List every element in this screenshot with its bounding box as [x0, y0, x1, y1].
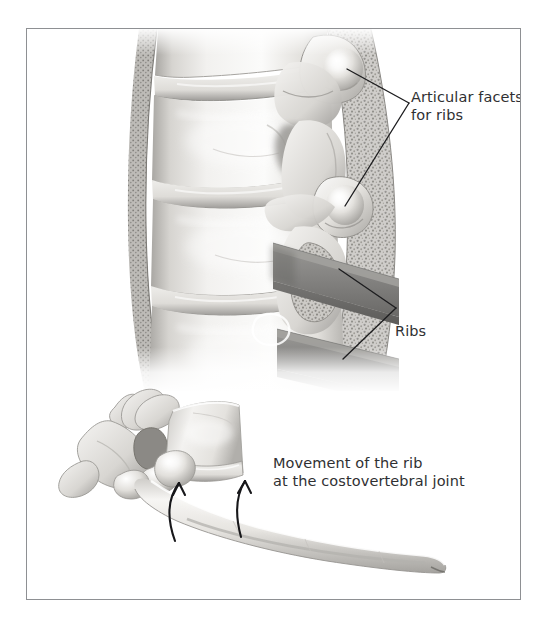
caption-partial-clipped [0, 612, 549, 626]
label-movement-of-rib: Movement of the rib at the costovertebra… [273, 455, 465, 490]
label-articular-facets-for-ribs: Articular facets for ribs [411, 89, 521, 124]
figure-frame: Articular facets for ribs Ribs Movement … [26, 28, 521, 600]
label-ribs: Ribs [395, 323, 426, 341]
figure-page: Articular facets for ribs Ribs Movement … [0, 0, 549, 626]
